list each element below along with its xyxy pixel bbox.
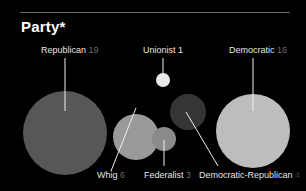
bubble-democratic-republican[interactable] [170,94,206,130]
label-democratic-republican: Democratic-Republican 4 [199,170,300,180]
label-unionist: Unionist 1 [143,45,183,55]
label-federalist: Federalist 3 [144,170,191,180]
label-democratic: Democratic 16 [229,45,287,55]
label-whig: Whig 6 [97,170,125,180]
label-republican: Republican 19 [41,45,99,55]
bubble-chart: Republican 19 Democratic 16 Unionist 1 W… [0,0,306,191]
bubble-whig[interactable] [113,114,159,160]
